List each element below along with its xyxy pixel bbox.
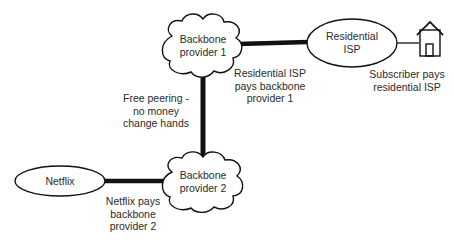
isp-pays-line1: Residential ISP	[228, 67, 312, 80]
isp-pays-annotation: Residential ISP pays backbone provider 1	[228, 67, 312, 105]
backbone-provider-2-label: Backbone provider 2	[170, 169, 236, 194]
peering-annotation: Free peering - no money change hands	[118, 92, 194, 130]
netflix-pays-annotation: Netflix pays backbone provider 2	[98, 195, 168, 233]
peering-line1: Free peering -	[118, 92, 194, 105]
peering-diagram: Backbone provider 1 Backbone provider 2 …	[0, 0, 454, 240]
subscriber-pays-annotation: Subscriber pays residential ISP	[364, 68, 450, 93]
netflix-label: Netflix	[25, 175, 95, 188]
residential-isp-line1: Residential	[312, 30, 392, 43]
netflix-pays-line1: Netflix pays	[98, 195, 168, 208]
netflix-pays-line3: provider 2	[98, 220, 168, 233]
residential-isp-label: Residential ISP	[312, 30, 392, 55]
isp-pays-line3: provider 1	[228, 92, 312, 105]
netflix-line1: Netflix	[25, 175, 95, 188]
backbone-2-line2: provider 2	[170, 182, 236, 195]
subscriber-pays-line2: residential ISP	[364, 81, 450, 94]
backbone-provider-1-label: Backbone provider 1	[170, 33, 236, 58]
backbone-1-line1: Backbone	[170, 33, 236, 46]
subscriber-pays-line1: Subscriber pays	[364, 68, 450, 81]
backbone-2-line1: Backbone	[170, 169, 236, 182]
netflix-pays-line2: backbone	[98, 208, 168, 221]
peering-line2: no money	[118, 105, 194, 118]
link-backbone1-residential-isp	[238, 42, 308, 44]
peering-line3: change hands	[118, 117, 194, 130]
backbone-1-line2: provider 1	[170, 46, 236, 59]
isp-pays-line2: pays backbone	[228, 80, 312, 93]
residential-isp-line2: ISP	[312, 43, 392, 56]
house-icon	[417, 22, 443, 56]
